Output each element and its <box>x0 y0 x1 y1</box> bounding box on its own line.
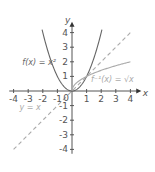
x-tick-label: 4 <box>128 94 134 104</box>
y-tick-label: 4 <box>62 28 68 38</box>
x-axis-arrow <box>136 89 141 94</box>
y-tick-label: -4 <box>59 144 68 154</box>
y-axis-label: y <box>64 15 71 25</box>
x-axis-label: x <box>142 88 149 98</box>
y-tick-label: 3 <box>62 42 68 52</box>
function-plot: -4-3-2-112344321-1-2-3-40xyf(x) = x²f⁻¹(… <box>0 0 155 172</box>
annotation-fx: f(x) = x² <box>22 58 56 67</box>
y-tick-label: -2 <box>59 115 68 125</box>
annotation-finv: f⁻¹(x) = √x <box>91 75 134 84</box>
annotation-yx: y = x <box>18 103 41 112</box>
x-tick-label: -4 <box>9 94 18 104</box>
y-tick-label: 1 <box>62 71 68 81</box>
origin-label: 0 <box>63 93 69 103</box>
x-tick-label: 2 <box>98 94 104 104</box>
y-tick-label: -3 <box>59 130 68 140</box>
y-tick-label: 2 <box>62 57 68 67</box>
x-tick-label: 3 <box>113 94 119 104</box>
x-tick-label: 1 <box>84 94 90 104</box>
